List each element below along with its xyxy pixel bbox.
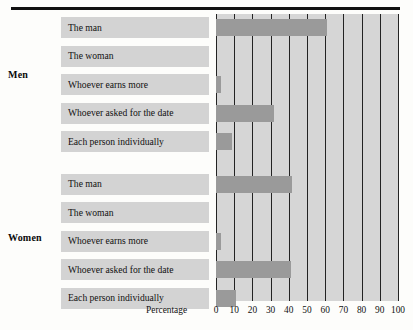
bar <box>216 133 232 150</box>
category-label-band: The woman <box>61 46 209 67</box>
category-label-band: Whoever earns more <box>61 74 209 95</box>
category-label-text: Each person individually <box>68 294 164 304</box>
bar <box>216 76 221 93</box>
category-label-text: The woman <box>68 208 114 218</box>
category-label-band: The man <box>61 174 209 195</box>
bar <box>216 233 221 250</box>
gridline-30 <box>271 14 272 301</box>
x-tick-label-100: 100 <box>387 306 409 315</box>
category-label-text: The man <box>68 179 102 189</box>
bar-chart-figure: Men Women The manThe womanWhoever earns … <box>0 0 413 330</box>
gridline-10 <box>234 14 235 301</box>
category-label-text: Each person individually <box>68 137 164 147</box>
category-label-text: Whoever asked for the date <box>68 265 173 275</box>
gridline-80 <box>362 14 363 301</box>
gridline-100 <box>398 14 399 301</box>
category-label-band: The woman <box>61 202 209 223</box>
gridline-20 <box>252 14 253 301</box>
category-label-text: The woman <box>68 51 114 61</box>
gridline-70 <box>343 14 344 301</box>
plot-area <box>216 14 398 301</box>
gridline-0 <box>216 14 217 301</box>
gridline-50 <box>307 14 308 301</box>
category-label-text: The man <box>68 23 102 33</box>
category-label-band: Whoever asked for the date <box>61 103 209 124</box>
category-label-text: Whoever earns more <box>68 80 148 90</box>
category-label-band: Whoever earns more <box>61 231 209 252</box>
x-axis-title: Percentage <box>146 306 187 315</box>
gridline-90 <box>380 14 381 301</box>
top-rule-divider <box>11 7 400 10</box>
category-label-band: Whoever asked for the date <box>61 259 209 280</box>
category-label-text: Whoever earns more <box>68 236 148 246</box>
bar <box>216 19 327 36</box>
gridline-60 <box>325 14 326 301</box>
bar <box>216 261 291 278</box>
bar <box>216 105 274 122</box>
bar <box>216 176 292 193</box>
gridline-40 <box>289 14 290 301</box>
category-label-band: Each person individually <box>61 131 209 152</box>
category-label-text: Whoever asked for the date <box>68 109 173 119</box>
category-label-band: The man <box>61 17 209 38</box>
